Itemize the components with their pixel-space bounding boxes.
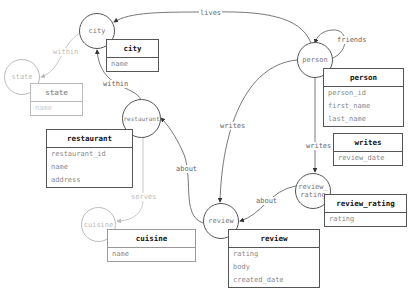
node-cuisine-label: cuisine [84,221,114,229]
table-state: state name [30,83,83,116]
table-review-field: rating [229,248,319,261]
node-review-rating-label-2: rating [300,191,325,199]
edge-label-serves: serves [130,193,157,201]
table-person-field: last_name [324,113,403,126]
node-review-rating-label-1: review_ [298,183,328,191]
edge-label-about-restaurant: about [175,165,198,173]
table-person-field: person_id [324,87,403,100]
table-writes-title: writes [334,134,402,152]
node-state-label: state [11,73,32,81]
edge-writes-review [220,60,297,202]
table-person-title: person [324,69,403,87]
table-cuisine-title: cuisine [108,230,195,248]
edge-label-about-review: about [255,197,278,205]
edge-label-friends: friends [336,36,368,44]
edge-label-within-state: within [52,48,79,56]
table-restaurant-field: address [47,174,132,187]
table-review-title: review [229,230,319,248]
table-person: person person_id first_name last_name [323,68,404,127]
table-person-field: first_name [324,100,403,113]
table-restaurant-field: name [47,161,132,174]
table-review-field: body [229,261,319,274]
node-review-label: review [208,217,233,225]
table-city: city name [106,39,159,72]
table-state-title: state [31,84,82,102]
table-city-title: city [107,40,158,58]
table-review-rating-field: rating [325,213,406,226]
table-state-field: name [31,102,82,115]
table-restaurant-title: restaurant [47,130,132,148]
table-restaurant-field: restaurant_id [47,148,132,161]
node-person-label: person [302,56,327,64]
edge-label-lives: lives [199,9,222,17]
edge-label-writes-rating: writes [305,142,332,150]
table-cuisine-field: name [108,248,195,261]
table-writes: writes review_date [333,133,403,166]
table-review-field: created_date [229,274,319,287]
node-restaurant-label: restaurant [123,115,159,123]
table-cuisine: cuisine name [107,229,196,262]
table-city-field: name [107,58,158,71]
table-writes-field: review_date [334,152,402,165]
edge-label-writes-review: writes [219,122,246,130]
table-review: review rating body created_date [228,229,320,288]
node-city-label: city [89,27,106,35]
edge-label-within-city: within [102,80,129,88]
table-restaurant: restaurant restaurant_id name address [46,129,133,188]
table-review-rating-title: review_rating [325,195,406,213]
table-review-rating: review_rating rating [324,194,407,227]
